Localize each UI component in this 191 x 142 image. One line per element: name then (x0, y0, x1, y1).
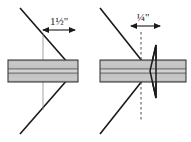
dimension-label-right: ¼" (137, 11, 150, 23)
horizontal-shaft (100, 60, 186, 82)
diagram-canvas: 1½" ¼" (0, 0, 191, 142)
technical-diagram: 1½" ¼" (0, 0, 191, 142)
dimension-label-left: 1½" (50, 15, 68, 27)
horizontal-shaft (8, 60, 78, 82)
